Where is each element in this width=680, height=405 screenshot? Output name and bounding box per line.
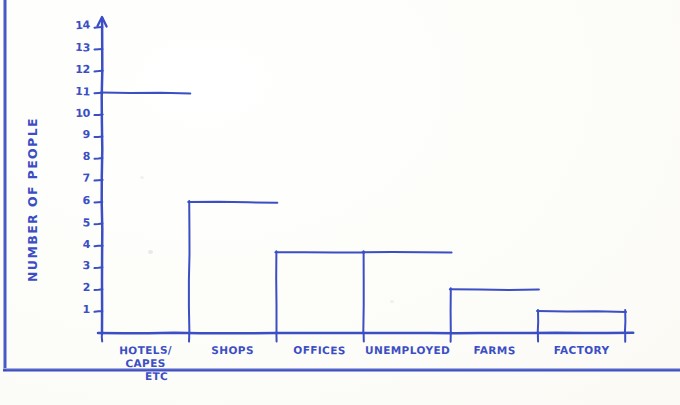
y-tick-label: 6 <box>68 194 90 207</box>
y-tick-label: 13 <box>68 40 91 54</box>
y-tick-label: 7 <box>68 172 90 186</box>
y-tick-label: 4 <box>68 237 90 250</box>
x-category-label-line: SHOPS <box>183 344 282 357</box>
y-tick-label: 5 <box>68 215 91 229</box>
x-category-label: OFFICES <box>270 344 369 357</box>
y-tick-label: 8 <box>68 150 90 163</box>
bar-chart: NUMBER OF PEOPLE 1234567891011121314 HOT… <box>0 0 680 405</box>
x-category-label-line: ETC <box>96 370 195 384</box>
x-category-label-line: OFFICES <box>270 343 369 357</box>
x-category-label-line: CAPES <box>96 357 195 371</box>
y-tick-label: 14 <box>68 18 91 32</box>
x-category-label: SHOPS <box>183 344 282 357</box>
y-tick-label: 10 <box>68 106 90 120</box>
x-category-label-line: FACTORY <box>532 344 631 357</box>
x-category-label: FARMS <box>445 344 544 357</box>
y-tick-label: 1 <box>68 303 90 316</box>
x-category-label: HOTELS/CAPESETC <box>96 344 195 383</box>
y-tick-label: 2 <box>68 281 90 294</box>
y-tick-label: 3 <box>68 259 90 272</box>
x-category-label-line: HOTELS/ <box>96 343 195 357</box>
x-category-label: UNEMPLOYED <box>358 344 457 357</box>
x-category-label: FACTORY <box>532 344 631 357</box>
x-category-label-line: UNEMPLOYED <box>358 344 457 357</box>
y-tick-label: 12 <box>68 63 90 76</box>
y-tick-label: 11 <box>68 84 91 98</box>
x-category-label-line: FARMS <box>445 343 544 357</box>
y-tick-label: 9 <box>68 128 90 141</box>
